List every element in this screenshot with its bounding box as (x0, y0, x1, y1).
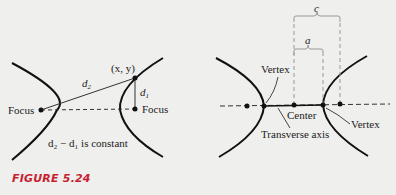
point-label: (x, y) (111, 62, 135, 75)
focus-left-dot (39, 108, 44, 113)
transverse-axis-label: Transverse axis (261, 128, 329, 140)
vertex-right-label: Vertex (351, 118, 380, 130)
focus-left-dot (245, 104, 250, 109)
focus-right-dot (338, 102, 343, 107)
d2-label: d2 (82, 77, 92, 91)
figure-caption: FIGURE 5.24 (12, 172, 91, 185)
a-bracket (294, 45, 323, 55)
vertex-right-dot (321, 103, 326, 108)
right-diagram: c a Vertex Center Vertex Transverse axis (216, 2, 390, 157)
center-label: Center (287, 109, 317, 121)
right-branch (323, 56, 368, 156)
vertex-left-label: Vertex (261, 63, 290, 75)
focus-right-dot (133, 107, 138, 112)
center-dot (292, 103, 297, 108)
point-dot (133, 76, 138, 81)
vertex-left-dot (262, 104, 267, 109)
c-label: c (314, 2, 319, 14)
vertex-left-arrow (266, 77, 278, 103)
hyperbola-figure: (x, y) d2 d1 Focus Focus d₂ − d₁ is cons… (0, 0, 396, 195)
equation-label: d₂ − d₁ is constant (48, 137, 128, 149)
focus-right-label: Focus (142, 103, 168, 115)
a-label: a (305, 34, 311, 46)
left-branch (216, 58, 264, 157)
d1-label: d1 (140, 86, 149, 100)
left-diagram: (x, y) d2 d1 Focus Focus d₂ − d₁ is cons… (8, 58, 168, 160)
focus-left-label: Focus (8, 104, 34, 116)
